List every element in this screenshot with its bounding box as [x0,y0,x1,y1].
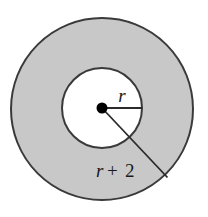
outer-radius-label-group: r + 2 [96,160,135,181]
outer-radius-label-two: 2 [125,160,135,181]
annulus-figure: r r + 2 [0,0,208,217]
annulus-diagram-svg: r r + 2 [0,0,208,217]
inner-radius-label: r [118,85,126,106]
outer-radius-label-plus: + [107,160,118,181]
outer-radius-label-r: r [96,160,104,181]
center-point-dot [97,103,108,114]
